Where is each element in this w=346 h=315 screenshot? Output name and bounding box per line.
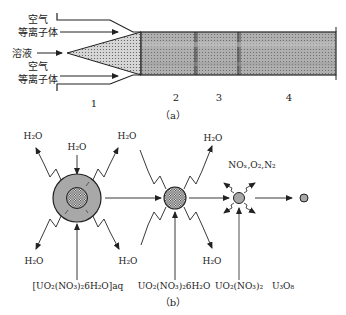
solution-label: 溶液 xyxy=(12,47,32,59)
air-plasma-top-label-2: 等离子体 xyxy=(18,26,58,38)
air-plasma-bottom-label-1: 空气 xyxy=(28,60,48,72)
droplet-1-core xyxy=(67,188,88,209)
zone-label-2: 2 xyxy=(173,92,179,103)
species-label-3: UO₂(NO₃)₂ xyxy=(215,281,263,291)
h2o-label-7: H₂O xyxy=(203,256,222,266)
figure-b-caption: （b） xyxy=(160,297,186,308)
reactor-top-wall xyxy=(57,13,141,32)
droplet-2 xyxy=(164,187,186,209)
h2o-label-6: H₂O xyxy=(119,256,138,266)
air-plasma-bottom-label-2: 等离子体 xyxy=(18,73,58,85)
air-plasma-top-label-1: 空气 xyxy=(28,13,48,25)
h2o-label-5: H₂O xyxy=(25,256,44,266)
h2o-label-3: H₂O xyxy=(118,131,137,141)
species-label-2: UO₂(NO₃)₂6H₂O xyxy=(138,281,211,291)
particle-3 xyxy=(234,193,245,204)
species-label-1: [UO₂(NO₃)₂6H₂O]aq xyxy=(33,281,124,291)
gas-release-label: NOₓ,O₂,N₂ xyxy=(228,160,276,170)
diagram-canvas: 空气 等离子体 溶液 空气 等离子体 1 2 3 4 （a） xyxy=(0,0,346,315)
particle-final xyxy=(300,194,308,202)
species-label-4: U₃O₈ xyxy=(272,281,295,291)
zone-label-4: 4 xyxy=(286,92,292,103)
h2o-label-2: H₂O xyxy=(68,142,87,152)
figure-a-reactor: 空气 等离子体 溶液 空气 等离子体 1 2 3 4 （a） xyxy=(12,13,336,121)
h2o-label-1: H₂O xyxy=(24,131,43,141)
reactor-bottom-wall xyxy=(57,75,141,91)
zone-label-1: 1 xyxy=(91,98,97,109)
figure-a-caption: （a） xyxy=(160,110,186,121)
figure-b-droplet-evolution: H₂O H₂O H₂O H₂O H₂O H₂O H₂O NOₓ,O₂,N₂ [U… xyxy=(24,131,308,308)
h2o-label-4: H₂O xyxy=(204,133,223,143)
zone-label-3: 3 xyxy=(216,92,222,103)
spray-cone xyxy=(67,32,141,75)
